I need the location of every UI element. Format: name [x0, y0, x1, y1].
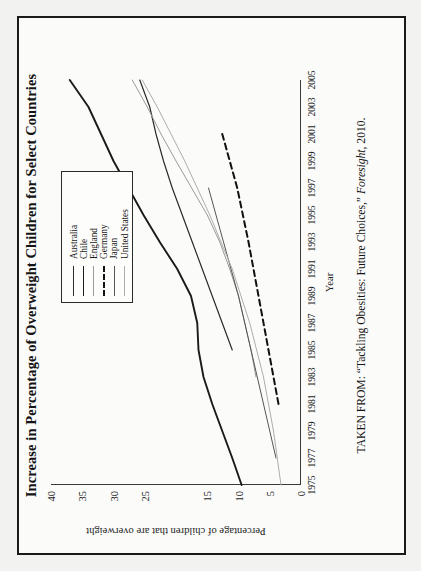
legend-label: Australia: [69, 225, 79, 259]
y-tick-label: 15: [202, 491, 213, 502]
y-axis-title-wrap: Percentage of children that are overweig…: [51, 523, 301, 539]
legend-line-swatch: [114, 266, 115, 296]
legend-label: Japan: [109, 238, 119, 259]
figure: Increase in Percentage of Overweight Chi…: [17, 16, 406, 555]
x-tick-label: 1979: [306, 421, 317, 440]
y-tick-label: 10: [233, 491, 244, 502]
y-tick-label: 5: [264, 491, 275, 496]
x-tick-label: 1985: [306, 340, 317, 359]
x-tick-label: 1975: [306, 475, 317, 494]
x-tick-label: 1989: [306, 286, 317, 305]
legend-line-swatch: [93, 266, 94, 296]
legend-line-swatch: [73, 266, 74, 296]
legend-label: United States: [120, 209, 130, 259]
y-axis-title: Percentage of children that are overweig…: [86, 526, 266, 537]
x-tick-label: 1987: [306, 313, 317, 332]
source-italic: Foresight: [355, 149, 368, 194]
y-tick-label: 30: [108, 491, 119, 502]
y-tick-label: 40: [46, 491, 57, 502]
source-prefix: TAKEN FROM: “Tackling Obesities: Future …: [355, 194, 368, 453]
legend-label: England: [89, 228, 99, 259]
source-suffix: , 2010.: [355, 118, 368, 150]
x-tick-label: 1977: [306, 448, 317, 467]
x-tick-label: 1999: [306, 151, 317, 170]
x-tick-label: 1991: [306, 259, 317, 278]
x-tick-label: 1995: [306, 205, 317, 224]
legend-label: Chile: [79, 239, 89, 259]
x-tick-label: 1981: [306, 394, 317, 413]
y-tick-label: 0: [296, 491, 307, 496]
y-tick-label: 35: [77, 491, 88, 502]
rotated-figure-stage: Increase in Percentage of Overweight Chi…: [17, 16, 406, 555]
x-tick-label: 1997: [306, 178, 317, 197]
x-tick-label: 2005: [306, 70, 317, 89]
series-line: [142, 80, 281, 485]
legend-label: Germany: [99, 224, 109, 259]
series-line: [209, 188, 277, 458]
x-axis-title: Year: [324, 80, 335, 485]
source-caption: TAKEN FROM: “Tackling Obesities: Future …: [355, 16, 368, 555]
chart-title: Increase in Percentage of Overweight Chi…: [23, 16, 40, 555]
y-tick-label: 25: [139, 491, 150, 502]
x-tick-label: 2003: [306, 97, 317, 116]
chart-legend: AustraliaChileEnglandGermanyJapanUnited …: [61, 171, 133, 303]
x-tick-label: 2001: [306, 124, 317, 143]
legend-line-swatch: [83, 266, 84, 296]
legend-line-swatch: [124, 266, 125, 296]
legend-line-swatch: [103, 266, 105, 296]
x-tick-label: 1983: [306, 367, 317, 386]
scanned-page: Increase in Percentage of Overweight Chi…: [0, 0, 421, 571]
legend-item: United States: [119, 178, 130, 296]
x-tick-label: 1993: [306, 232, 317, 251]
